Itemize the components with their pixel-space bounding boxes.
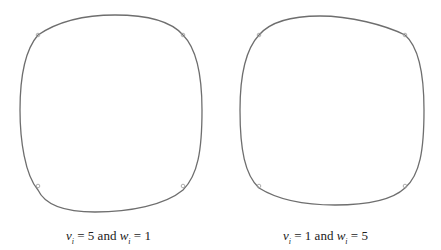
v-value: = 1 (294, 228, 311, 243)
w-symbol: w (120, 228, 129, 243)
v-value: = 5 (77, 228, 94, 243)
v-subscript: i (289, 237, 291, 246)
w-value: = 5 (351, 228, 368, 243)
control-point-marker (181, 184, 185, 188)
left-curve (20, 15, 202, 212)
left-caption: vi = 5 and wi = 1 (66, 228, 151, 246)
and-word: and (98, 228, 117, 243)
and-word: and (315, 228, 334, 243)
v-subscript: i (72, 237, 74, 246)
control-point-marker (36, 184, 40, 188)
w-subscript: i (128, 237, 130, 246)
w-subscript: i (345, 237, 347, 246)
right-curve (240, 16, 424, 205)
w-symbol: w (337, 228, 346, 243)
figure-canvas (0, 0, 441, 250)
right-caption: vi = 1 and wi = 5 (283, 228, 368, 246)
w-value: = 1 (134, 228, 151, 243)
